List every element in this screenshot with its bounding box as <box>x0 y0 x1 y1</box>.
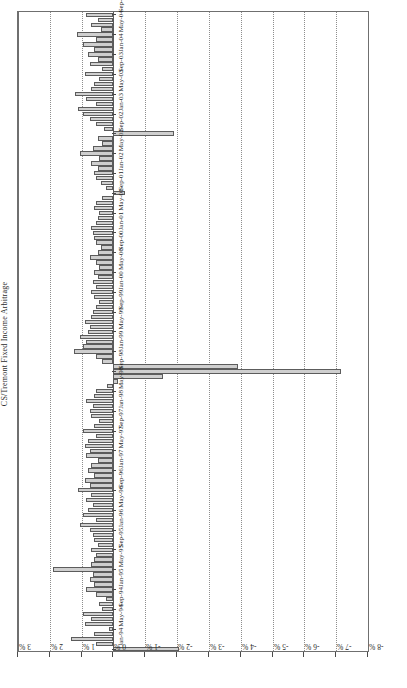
value-tick <box>240 652 241 657</box>
rotated-chart-canvas: CS/Tremont Fixed Income Arbitrage 3 %2 %… <box>0 0 407 688</box>
category-tick <box>112 569 116 570</box>
bar <box>93 503 114 507</box>
bar <box>102 196 113 200</box>
category-tick-label: Jan-97 <box>117 450 125 469</box>
category-tick <box>112 549 116 550</box>
bar <box>96 354 114 358</box>
bar <box>85 320 114 324</box>
bar <box>96 592 114 596</box>
bar <box>99 211 113 215</box>
bar <box>93 231 114 235</box>
bar <box>96 102 114 106</box>
category-tick <box>112 332 116 333</box>
category-tick-label: May-98 <box>117 367 125 389</box>
category-tick-label: May-02 <box>117 129 125 151</box>
category-tick-label: Jan-96 <box>117 509 125 528</box>
chart-title: CS/Tremont Fixed Income Arbitrage <box>0 0 9 688</box>
bar <box>96 240 114 244</box>
bar <box>106 597 114 601</box>
value-tick-label: -5 % <box>274 642 288 651</box>
gridline <box>177 12 178 651</box>
gridline <box>336 12 337 651</box>
category-tick <box>112 232 116 233</box>
bar <box>91 493 113 497</box>
category-tick <box>112 213 116 214</box>
value-tick-label: -2 % <box>178 642 192 651</box>
bar <box>93 146 114 150</box>
category-tick <box>112 252 116 253</box>
bar <box>98 275 114 279</box>
value-tick-label: -6 % <box>305 642 319 651</box>
bar <box>91 290 113 294</box>
category-tick-label: May-04 <box>117 10 125 32</box>
value-tick-label: 3 % <box>19 642 31 651</box>
bar <box>53 567 113 571</box>
bar <box>83 345 113 349</box>
bar <box>86 13 113 17</box>
bar <box>99 77 113 81</box>
bar <box>83 429 113 433</box>
value-tick-label: -8 % <box>369 642 383 651</box>
bar <box>88 330 113 334</box>
bar <box>94 236 113 240</box>
bar <box>90 255 114 259</box>
category-tick <box>112 530 116 531</box>
bar <box>96 221 114 225</box>
category-tick-label: May-99 <box>117 307 125 329</box>
category-tick-label: Sep-95 <box>117 528 125 548</box>
bar <box>91 315 113 319</box>
value-tick-label: -7 % <box>337 642 351 651</box>
bar <box>99 265 113 269</box>
bar <box>113 369 341 373</box>
bar <box>91 463 113 467</box>
category-tick-label: Sep-94 <box>117 587 125 607</box>
bar <box>90 449 114 453</box>
bar <box>93 533 114 537</box>
bar <box>93 572 114 576</box>
value-tick-label: -4 % <box>242 642 256 651</box>
bar <box>90 483 114 487</box>
value-tick-label: -1 % <box>146 642 160 651</box>
value-tick <box>81 652 82 657</box>
bar <box>93 280 114 284</box>
category-tick-label: Sep-98 <box>117 349 125 369</box>
category-tick <box>112 411 116 412</box>
bar <box>80 151 113 155</box>
bar <box>83 42 113 46</box>
bar <box>86 453 113 457</box>
category-tick <box>112 431 116 432</box>
bar <box>85 622 114 626</box>
category-tick-label: Sep-01 <box>117 171 125 191</box>
bar <box>94 538 113 542</box>
bar <box>91 23 113 27</box>
bar <box>104 127 114 131</box>
bar <box>113 364 237 368</box>
value-tick <box>176 652 177 657</box>
category-tick <box>112 649 116 650</box>
category-tick <box>112 54 116 55</box>
bar <box>90 409 114 413</box>
bar <box>96 260 114 264</box>
bar <box>94 582 113 586</box>
bar <box>85 72 114 76</box>
category-tick-label: Jan-00 <box>117 271 125 290</box>
bar <box>90 62 114 66</box>
bar <box>86 498 113 502</box>
bar <box>96 37 114 41</box>
value-tick-label: 1 % <box>83 642 95 651</box>
bar <box>98 57 114 61</box>
bar <box>102 67 113 71</box>
category-tick <box>112 272 116 273</box>
category-tick-label: Jan-01 <box>117 212 125 231</box>
bar <box>75 92 113 96</box>
bar <box>88 52 113 56</box>
bar <box>101 245 114 249</box>
category-tick <box>112 312 116 313</box>
category-tick-label: Sep-99 <box>117 290 125 310</box>
value-tick-label: -3 % <box>210 642 224 651</box>
value-tick <box>367 652 368 657</box>
category-tick <box>112 173 116 174</box>
category-tick-label: Jan-99 <box>117 331 125 350</box>
value-tick <box>208 652 209 657</box>
category-tick-label: May-96 <box>117 486 125 508</box>
